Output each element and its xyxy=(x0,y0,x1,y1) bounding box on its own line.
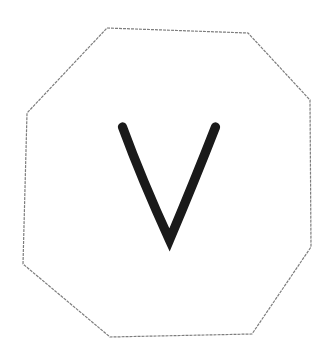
sketch-canvas xyxy=(0,0,331,359)
octagon-v-drawing xyxy=(0,0,331,359)
canvas-background xyxy=(0,0,331,359)
